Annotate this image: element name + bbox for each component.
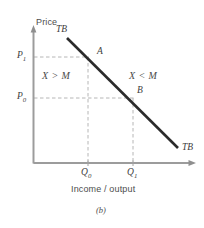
axes-group — [31, 25, 196, 166]
figure-container: Price TB TB A B P1 P0 Q0 Q1 X > M X < M … — [0, 0, 204, 228]
figure-caption: (b) — [96, 206, 106, 215]
tb-curve-group — [67, 38, 178, 148]
x-tick-label-q0-base: Q — [81, 167, 88, 177]
x-axis-arrow-icon — [189, 160, 197, 166]
x-axis-title: Income / output — [71, 185, 135, 194]
y-tick-label-p1: P1 — [17, 51, 26, 63]
y-tick-label-p1-sub: 1 — [23, 55, 26, 62]
y-axis-title: Price — [36, 18, 57, 27]
x-tick-label-q0-sub: 0 — [88, 172, 91, 179]
x-tick-label-q1-sub: 1 — [134, 172, 137, 179]
tb-label-top: TB — [56, 25, 67, 35]
y-tick-label-p0: P0 — [17, 92, 26, 104]
point-label-a: A — [97, 47, 103, 57]
x-tick-label-q0: Q0 — [81, 168, 91, 180]
region-label-deficit: X < M — [129, 71, 157, 81]
y-tick-label-p0-sub: 0 — [23, 96, 26, 103]
point-label-b: B — [137, 86, 143, 96]
x-tick-label-q1: Q1 — [127, 168, 137, 180]
region-label-surplus: X > M — [42, 71, 70, 81]
tb-label-bottom: TB — [182, 143, 193, 153]
tb-curve-line — [67, 38, 178, 148]
x-tick-label-q1-base: Q — [127, 167, 134, 177]
